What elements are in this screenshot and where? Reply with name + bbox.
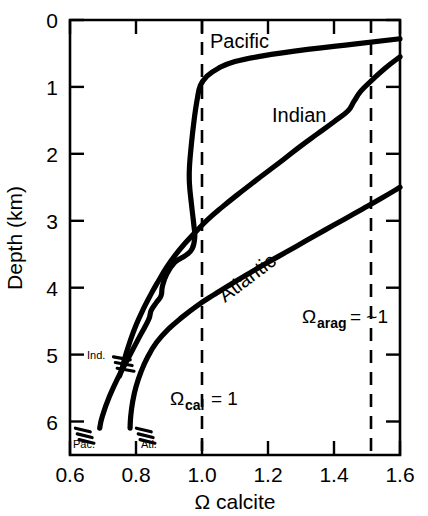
calcite-saturation-depth-figure: 0 1 2 3 4 5 6 0.6 0.8 1.0 1. bbox=[0, 0, 428, 516]
data-series-group bbox=[100, 39, 400, 428]
x-tick-label-4: 1.4 bbox=[319, 463, 349, 486]
atlantic-endpoint-label: Atl. bbox=[141, 438, 157, 450]
aragonite-annotation-omega: Ω bbox=[302, 306, 316, 327]
chart-canvas: 0 1 2 3 4 5 6 0.6 0.8 1.0 1. bbox=[0, 0, 428, 516]
y-axis-title: Depth (km) bbox=[3, 186, 26, 290]
aragonite-annotation-value: = ~1 bbox=[350, 306, 388, 327]
x-tick-label-3: 1.2 bbox=[253, 463, 282, 486]
y-axis-ticks bbox=[70, 20, 400, 422]
y-tick-label-2: 2 bbox=[46, 143, 58, 166]
atlantic-series-label: Atlantic bbox=[214, 249, 280, 306]
x-tick-label-0: 0.6 bbox=[55, 463, 84, 486]
y-tick-label-1: 1 bbox=[46, 76, 58, 99]
y-tick-label-5: 5 bbox=[46, 344, 58, 367]
x-tick-label-1: 0.8 bbox=[121, 463, 150, 486]
x-axis-tick-labels: 0.6 0.8 1.0 1.2 1.4 1.6 bbox=[55, 463, 414, 486]
y-tick-label-3: 3 bbox=[46, 210, 58, 233]
pacific-endpoint-label: Pac. bbox=[73, 438, 95, 450]
x-tick-label-2: 1.0 bbox=[187, 463, 216, 486]
x-tick-label-5: 1.6 bbox=[385, 463, 414, 486]
y-axis-tick-labels: 0 1 2 3 4 5 6 bbox=[46, 9, 58, 434]
indian-curve bbox=[120, 57, 401, 376]
calcite-annotation: Ω cal = 1 bbox=[170, 388, 238, 413]
calcite-annotation-omega: Ω bbox=[170, 388, 184, 409]
y-tick-label-6: 6 bbox=[46, 411, 58, 434]
aragonite-annotation: Ω arag = ~1 bbox=[302, 306, 388, 331]
aragonite-annotation-subscript: arag bbox=[317, 315, 347, 331]
indian-endpoint-label: Ind. bbox=[87, 349, 105, 361]
indian-series-label: Indian bbox=[272, 104, 327, 126]
y-tick-label-0: 0 bbox=[46, 9, 58, 32]
x-axis-title: Ω calcite bbox=[194, 490, 275, 513]
pacific-series-label: Pacific bbox=[210, 30, 269, 52]
calcite-annotation-subscript: cal bbox=[185, 397, 204, 413]
calcite-annotation-value: = 1 bbox=[211, 388, 238, 409]
y-tick-label-4: 4 bbox=[46, 277, 58, 300]
